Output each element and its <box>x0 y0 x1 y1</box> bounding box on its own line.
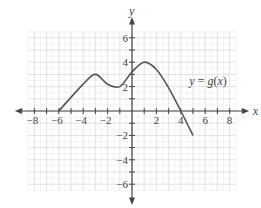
curve-label: y = g(x) <box>188 74 226 88</box>
svg-text:6: 6 <box>202 114 208 126</box>
svg-text:−6: −6 <box>51 114 63 126</box>
svg-text:2: 2 <box>154 114 160 126</box>
svg-text:−4: −4 <box>116 154 128 166</box>
svg-text:−2: −2 <box>100 114 112 126</box>
y-axis-label: y <box>128 4 135 18</box>
function-graph: −8−6−4−22468−6−4−2246 y = g(x) x y <box>0 0 261 208</box>
x-axis-label: x <box>252 104 259 118</box>
svg-text:−4: −4 <box>75 114 87 126</box>
svg-text:8: 8 <box>227 114 233 126</box>
svg-text:−2: −2 <box>116 129 128 141</box>
axes <box>15 17 249 205</box>
svg-text:−8: −8 <box>27 114 39 126</box>
svg-text:6: 6 <box>123 32 129 44</box>
svg-text:−6: −6 <box>116 178 128 190</box>
svg-text:4: 4 <box>123 56 129 68</box>
